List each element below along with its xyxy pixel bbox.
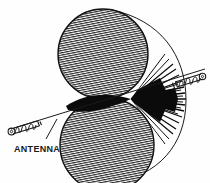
diagram-canvas: ANTENNA [0,0,210,183]
upper-radiation-lobe [58,9,148,99]
antenna-label: ANTENNA [14,144,60,154]
antenna-radiation-pattern-figure: ANTENNA [0,0,210,183]
